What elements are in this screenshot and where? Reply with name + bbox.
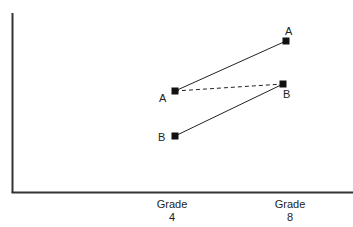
marker-a-grade4: [172, 88, 179, 95]
point-label-a-grade8: A: [285, 25, 293, 37]
line-chart: A B A B Grade 4 Grade 8: [0, 0, 353, 227]
dashed-comparison-line: [175, 84, 283, 91]
series-b-line: [175, 84, 283, 136]
series-a-line: [175, 41, 286, 91]
tick-label-grade4-line1: Grade: [157, 198, 188, 210]
marker-a-grade8: [283, 38, 290, 45]
point-label-b-grade8: B: [283, 88, 290, 100]
tick-label-grade8-line1: Grade: [275, 198, 306, 210]
marker-b-grade8: [280, 81, 287, 88]
point-label-b-grade4: B: [158, 131, 165, 143]
tick-label-grade4-line2: 4: [169, 211, 175, 223]
tick-label-grade8-line2: 8: [287, 211, 293, 223]
marker-b-grade4: [172, 133, 179, 140]
point-label-a-grade4: A: [159, 92, 167, 104]
chart-root: A B A B Grade 4 Grade 8: [0, 0, 353, 227]
